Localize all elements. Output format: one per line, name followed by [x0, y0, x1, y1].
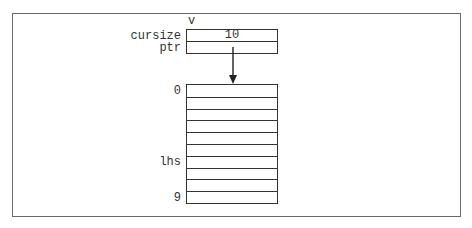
- array-cell: [187, 144, 277, 156]
- array-cell: [187, 179, 277, 191]
- array-cell: [187, 85, 277, 97]
- array-cell: [187, 97, 277, 109]
- array-cell: [187, 168, 277, 180]
- array-index-label-9: 9: [140, 192, 181, 204]
- array-cell: [187, 132, 277, 144]
- array-index-label-0: 0: [140, 85, 181, 97]
- array-cell: [187, 120, 277, 132]
- array-index-label-lhs: lhs: [140, 156, 181, 168]
- array-cell: [187, 156, 277, 168]
- array-box: [186, 84, 278, 204]
- arrowhead-icon: [229, 75, 237, 84]
- array-cell: [187, 109, 277, 121]
- array-cell: [187, 191, 277, 203]
